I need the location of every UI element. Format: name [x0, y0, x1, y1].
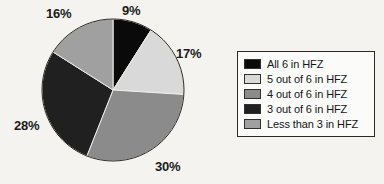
legend-item: 5 out of 6 in HFZ: [244, 72, 368, 86]
pie-slice-group: [42, 19, 184, 161]
legend-item-label: 3 out of 6 in HFZ: [267, 104, 347, 115]
legend-swatch-icon: [244, 104, 261, 114]
pie-chart-figure: 9% 17% 30% 28% 16% All 6 in HFZ 5 out of…: [0, 0, 384, 184]
legend-swatch-icon: [244, 89, 261, 99]
legend-item-label: 5 out of 6 in HFZ: [267, 74, 347, 85]
legend-item-label: All 6 in HFZ: [267, 59, 323, 70]
pie-value-label-0: 9%: [122, 4, 140, 17]
pie-value-label-3: 28%: [14, 119, 39, 132]
legend-item: 4 out of 6 in HFZ: [244, 87, 368, 101]
pie-value-label-2: 30%: [155, 160, 180, 173]
pie-plot-area: 9% 17% 30% 28% 16%: [0, 0, 230, 184]
legend-swatch-icon: [244, 119, 261, 129]
pie-svg: [0, 0, 230, 184]
legend-swatch-icon: [244, 74, 261, 84]
legend-item: Less than 3 in HFZ: [244, 117, 368, 131]
legend-item-label: Less than 3 in HFZ: [267, 119, 358, 130]
legend-swatch-icon: [244, 59, 261, 69]
pie-value-label-4: 16%: [46, 7, 71, 20]
chart-legend: All 6 in HFZ 5 out of 6 in HFZ 4 out of …: [237, 51, 375, 137]
legend-item: All 6 in HFZ: [244, 57, 368, 71]
legend-item: 3 out of 6 in HFZ: [244, 102, 368, 116]
pie-value-label-1: 17%: [176, 47, 201, 60]
legend-item-label: 4 out of 6 in HFZ: [267, 89, 347, 100]
